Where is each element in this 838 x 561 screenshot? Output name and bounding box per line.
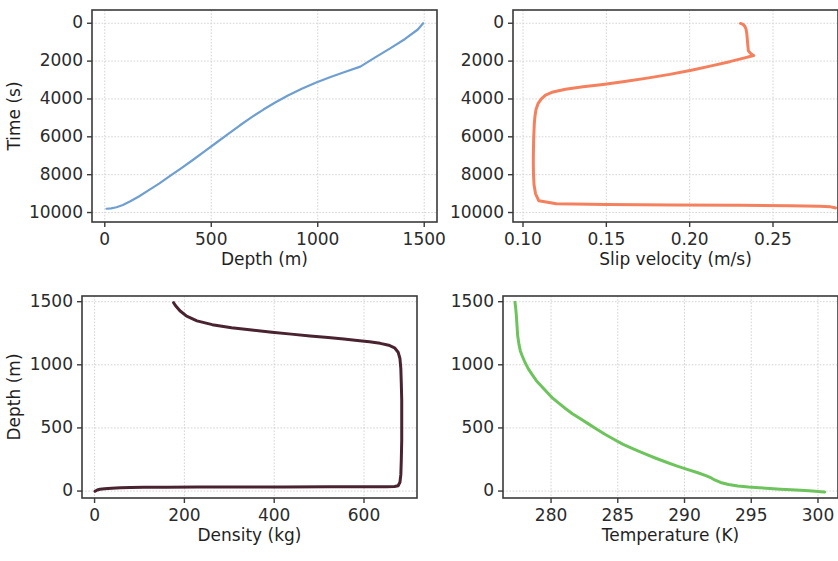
y-tick-label: 0: [483, 480, 494, 500]
y-tick-label: 10000: [29, 202, 83, 222]
y-tick-label: 6000: [461, 126, 504, 146]
x-axis-title: Slip velocity (m/s): [599, 249, 752, 269]
x-tick-label: 0.15: [587, 229, 625, 249]
panel-density-vs-depth: 0200400600050010001500Density (kg)Depth …: [0, 280, 440, 561]
x-tick-label: 300: [802, 505, 834, 525]
x-tick-label: 0.10: [504, 229, 542, 249]
y-tick-label: 2000: [461, 50, 504, 70]
x-tick-label: 600: [348, 505, 380, 525]
series-line: [106, 23, 423, 209]
x-tick-label: 0: [99, 229, 110, 249]
y-tick-label: 4000: [461, 88, 504, 108]
x-tick-label: 0.25: [754, 229, 792, 249]
axes-frame: [92, 10, 437, 222]
chart-time-vs-depth: 0500100015000200040006000800010000Depth …: [0, 0, 440, 280]
y-tick-label: 1500: [30, 291, 73, 311]
panel-temperature-vs-depth: 280285290295300050010001500Temperature (…: [440, 280, 838, 561]
x-tick-label: 285: [602, 505, 634, 525]
y-tick-label: 500: [462, 417, 494, 437]
x-tick-label: 0.20: [671, 229, 709, 249]
y-tick-label: 8000: [40, 164, 83, 184]
x-axis-title: Density (kg): [198, 525, 302, 545]
x-tick-label: 400: [258, 505, 290, 525]
y-tick-label: 0: [72, 12, 83, 32]
x-tick-label: 290: [668, 505, 700, 525]
y-tick-label: 6000: [40, 126, 83, 146]
series-line: [95, 303, 402, 492]
chart-temperature-vs-depth: 280285290295300050010001500Temperature (…: [440, 280, 838, 561]
panel-time-vs-depth: 0500100015000200040006000800010000Depth …: [0, 0, 440, 280]
y-tick-label: 500: [41, 417, 73, 437]
axes-frame: [513, 10, 838, 222]
figure-canvas: 0500100015000200040006000800010000Depth …: [0, 0, 838, 561]
y-tick-label: 1000: [451, 354, 494, 374]
y-tick-label: 1000: [30, 354, 73, 374]
x-axis-title: Temperature (K): [601, 525, 740, 545]
y-tick-label: 0: [62, 480, 73, 500]
x-tick-label: 1000: [296, 229, 339, 249]
x-tick-label: 280: [535, 505, 567, 525]
y-tick-label: 8000: [461, 164, 504, 184]
y-tick-label: 0: [493, 12, 504, 32]
series-line: [515, 302, 825, 492]
y-tick-label: 10000: [450, 202, 504, 222]
y-axis-title: Depth (m): [4, 353, 24, 440]
x-tick-label: 295: [735, 505, 767, 525]
y-axis-title: Time (s): [4, 81, 24, 151]
chart-slip-velocity-vs-time: 0.100.150.200.250200040006000800010000Sl…: [440, 0, 838, 280]
panel-slip-velocity-vs-time: 0.100.150.200.250200040006000800010000Sl…: [440, 0, 838, 280]
y-tick-label: 4000: [40, 88, 83, 108]
x-tick-label: 200: [168, 505, 200, 525]
series-line: [533, 23, 835, 208]
y-tick-label: 2000: [40, 50, 83, 70]
axes-frame: [82, 296, 417, 498]
x-tick-label: 500: [195, 229, 227, 249]
chart-density-vs-depth: 0200400600050010001500Density (kg)Depth …: [0, 280, 440, 561]
x-axis-title: Depth (m): [221, 249, 308, 269]
x-tick-label: 0: [89, 505, 100, 525]
y-tick-label: 1500: [451, 291, 494, 311]
